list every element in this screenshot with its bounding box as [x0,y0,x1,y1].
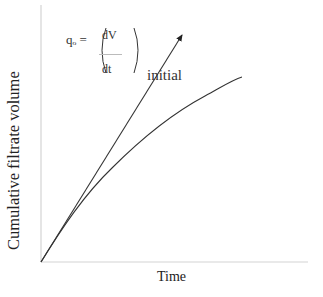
x-axis-label: Time [157,269,186,285]
y-axis-label: Cumulative filtrate volume [4,71,24,250]
diagram-canvas [0,0,323,297]
equation-lhs: qₒ = [66,32,87,48]
equation-numerator: dV [102,28,117,43]
equation-subscript: initial [147,67,182,84]
fraction-bar [99,54,122,55]
equation-right-paren [134,28,138,73]
filtrate-volume-curve [41,77,242,262]
equation-denominator: dt [102,62,111,77]
